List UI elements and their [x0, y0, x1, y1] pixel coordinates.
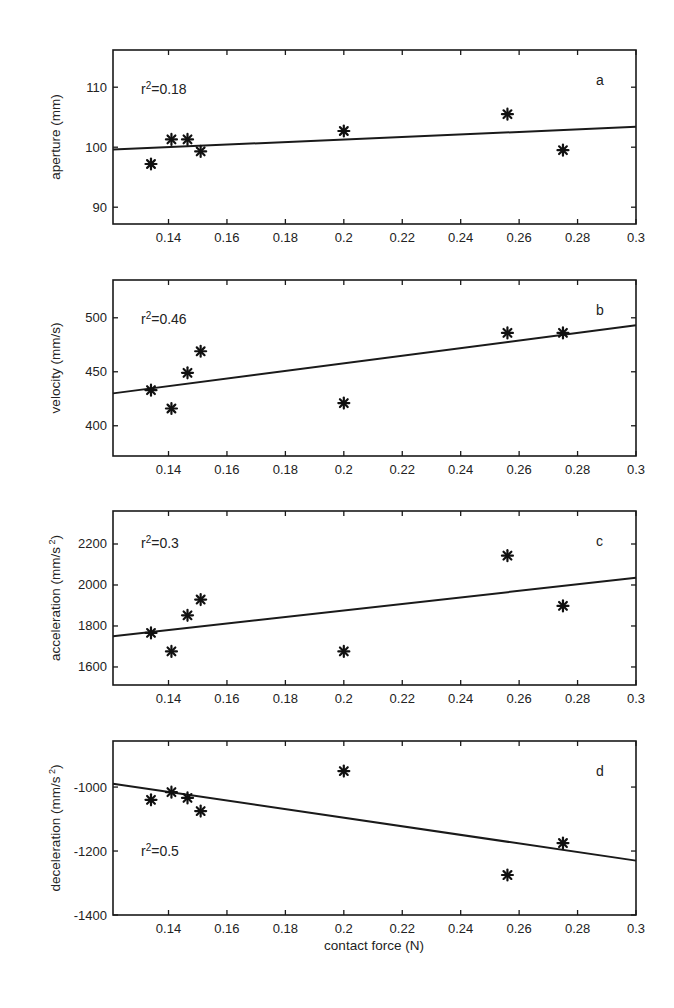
x-tick-label: 0.3 [627, 230, 645, 245]
asterisk-marker [502, 870, 513, 881]
r-squared-annotation: r2=0.46 [141, 310, 187, 328]
r-squared-annotation: r2=0.18 [141, 80, 187, 98]
x-tick-label: 0.24 [448, 230, 473, 245]
panel-b: 0.140.160.180.20.220.240.260.280.3400450… [48, 280, 645, 477]
asterisk-marker [195, 806, 206, 817]
figure: 0.140.160.180.20.220.240.260.280.3901001… [0, 0, 674, 1008]
y-axis-label: velocity (mm/s) [48, 323, 63, 414]
panel-letter: d [596, 763, 604, 779]
x-tick-label: 0.3 [627, 921, 645, 936]
plot-frame [113, 741, 636, 915]
asterisk-marker [338, 766, 349, 777]
regression-line [113, 127, 636, 150]
x-tick-label: 0.28 [565, 691, 590, 706]
asterisk-marker [166, 134, 177, 145]
panel-c: 0.140.160.180.20.220.240.260.280.3160018… [47, 511, 645, 706]
asterisk-marker [195, 346, 206, 357]
x-tick-label: 0.22 [390, 691, 415, 706]
x-tick-label: 0.18 [273, 462, 298, 477]
x-tick-label: 0.28 [565, 921, 590, 936]
asterisk-marker [557, 145, 568, 156]
x-axis-label: contact force (N) [324, 938, 424, 953]
x-tick-label: 0.22 [390, 230, 415, 245]
panel-a: 0.140.160.180.20.220.240.260.280.3901001… [48, 50, 645, 245]
asterisk-marker [557, 600, 568, 611]
x-tick-label: 0.18 [273, 921, 298, 936]
asterisk-marker [195, 146, 206, 157]
y-tick-label: -1200 [74, 844, 107, 859]
x-tick-label: 0.26 [506, 691, 531, 706]
plot-frame [113, 511, 636, 685]
x-tick-label: 0.26 [506, 230, 531, 245]
y-tick-label: 500 [85, 310, 107, 325]
y-tick-label: 450 [85, 364, 107, 379]
y-tick-label: -1000 [74, 780, 107, 795]
asterisk-marker [338, 398, 349, 409]
asterisk-marker [195, 594, 206, 605]
x-tick-label: 0.26 [506, 462, 531, 477]
x-tick-label: 0.2 [335, 691, 353, 706]
x-tick-label: 0.14 [156, 462, 181, 477]
y-tick-label: 100 [85, 140, 107, 155]
x-tick-label: 0.16 [214, 691, 239, 706]
y-tick-label: 2200 [78, 536, 107, 551]
y-axis-label: acceleration (mm/s 2) [47, 535, 63, 661]
x-tick-label: 0.3 [627, 691, 645, 706]
y-tick-label: -1400 [74, 908, 107, 923]
asterisk-marker [166, 403, 177, 414]
x-tick-label: 0.2 [335, 921, 353, 936]
x-tick-label: 0.18 [273, 230, 298, 245]
asterisk-marker [182, 367, 193, 378]
asterisk-marker [338, 126, 349, 137]
x-tick-label: 0.14 [156, 691, 181, 706]
r-squared-annotation: r2=0.5 [141, 842, 179, 860]
y-tick-label: 90 [93, 200, 107, 215]
x-tick-label: 0.24 [448, 462, 473, 477]
figure-canvas: 0.140.160.180.20.220.240.260.280.3901001… [0, 0, 674, 1008]
asterisk-marker [557, 327, 568, 338]
x-tick-label: 0.16 [214, 230, 239, 245]
x-tick-label: 0.24 [448, 691, 473, 706]
y-tick-label: 400 [85, 418, 107, 433]
asterisk-marker [502, 550, 513, 561]
asterisk-marker [166, 787, 177, 798]
x-tick-label: 0.16 [214, 462, 239, 477]
regression-line [113, 325, 636, 393]
asterisk-marker [502, 327, 513, 338]
x-tick-label: 0.16 [214, 921, 239, 936]
asterisk-marker [145, 385, 156, 396]
x-tick-label: 0.28 [565, 230, 590, 245]
regression-line [113, 578, 636, 636]
asterisk-marker [182, 610, 193, 621]
asterisk-marker [145, 794, 156, 805]
panel-letter: a [596, 72, 604, 88]
y-axis-label: deceleration (mm/s 2) [47, 765, 63, 892]
y-tick-label: 1600 [78, 659, 107, 674]
asterisk-marker [166, 646, 177, 657]
x-tick-label: 0.2 [335, 230, 353, 245]
asterisk-marker [182, 134, 193, 145]
asterisk-marker [502, 109, 513, 120]
r-squared-annotation: r2=0.3 [141, 534, 179, 552]
asterisk-marker [145, 159, 156, 170]
x-tick-label: 0.24 [448, 921, 473, 936]
y-tick-label: 110 [86, 80, 107, 95]
x-tick-label: 0.2 [335, 462, 353, 477]
x-tick-label: 0.14 [156, 230, 181, 245]
x-tick-label: 0.3 [627, 462, 645, 477]
x-tick-label: 0.22 [390, 921, 415, 936]
asterisk-marker [182, 792, 193, 803]
panel-d: 0.140.160.180.20.220.240.260.280.3-1400-… [47, 741, 645, 936]
asterisk-marker [557, 838, 568, 849]
panel-letter: b [596, 302, 604, 318]
x-tick-label: 0.26 [506, 921, 531, 936]
y-tick-label: 2000 [78, 577, 107, 592]
x-tick-label: 0.22 [390, 462, 415, 477]
x-tick-label: 0.14 [156, 921, 181, 936]
y-tick-label: 1800 [78, 618, 107, 633]
asterisk-marker [338, 646, 349, 657]
y-axis-label: aperture (mm) [48, 94, 63, 180]
panel-letter: c [596, 533, 603, 549]
x-tick-label: 0.18 [273, 691, 298, 706]
asterisk-marker [145, 627, 156, 638]
